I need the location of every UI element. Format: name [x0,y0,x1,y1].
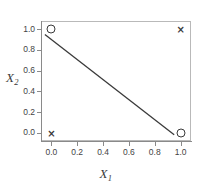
x-tick-label: 1.0 [168,147,194,157]
x-axis-title-base: X [99,166,107,181]
data-point-circle [47,25,56,34]
y-axis-title-base: X [6,70,14,85]
x-tick-label: 0.0 [38,147,64,157]
y-axis-title-subscript: 2 [14,77,18,87]
chart-figure: 0.00.20.40.60.81.0 0.00.20.40.60.81.0 ××… [0,0,211,188]
y-tick-label: 0.4 [13,86,35,96]
x-tick-mark [51,142,52,146]
y-tick-label: 0.2 [13,107,35,117]
x-tick-mark [103,142,104,146]
data-point-cross: × [46,127,57,138]
x-tick-mark [181,142,182,146]
y-tick-mark [37,133,41,134]
x-tick-mark [77,142,78,146]
x-tick-mark [129,142,130,146]
y-axis-title: X2 [2,70,22,86]
y-tick-mark [37,71,41,72]
x-axis-title: X1 [0,166,211,182]
data-point-circle [176,128,185,137]
x-tick-label: 0.8 [142,147,168,157]
y-tick-mark [37,29,41,30]
y-tick-label: 1.0 [13,24,35,34]
plot-area [41,21,191,141]
y-tick-mark [37,91,41,92]
x-tick-label: 0.6 [116,147,142,157]
y-tick-label: 0.0 [13,127,35,137]
x-tick-mark [155,142,156,146]
y-tick-mark [37,50,41,51]
x-tick-label: 0.2 [64,147,90,157]
x-axis-line [41,141,192,142]
data-point-cross: × [175,24,186,35]
x-axis-title-subscript: 1 [108,173,112,183]
x-tick-label: 0.4 [90,147,116,157]
y-tick-mark [37,112,41,113]
y-tick-label: 0.8 [13,44,35,54]
y-axis-line [41,21,42,142]
